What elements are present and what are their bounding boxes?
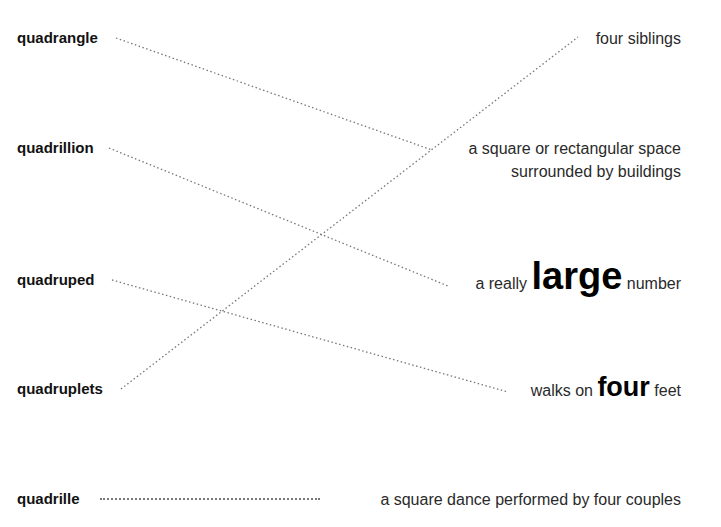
connector-quadruped <box>112 280 508 392</box>
term-quadrangle: quadrangle <box>17 29 98 46</box>
connector-quadrillion <box>109 148 448 286</box>
def-large-post: number <box>627 275 681 292</box>
def-quadrangle-line1: a square or rectangular space <box>468 137 681 160</box>
def-four-siblings: four siblings <box>596 27 681 50</box>
connector-quadrangle <box>116 38 432 150</box>
term-quadrille: quadrille <box>17 490 80 507</box>
def-large-pre: a really <box>475 275 527 292</box>
term-quadrillion: quadrillion <box>17 139 94 156</box>
def-large-emphasis: large <box>531 255 622 297</box>
term-quadruplets: quadruplets <box>17 380 103 397</box>
def-quadrangle: a square or rectangular space surrounded… <box>468 137 681 183</box>
connector-quadruplets <box>121 37 578 389</box>
def-square-dance: a square dance performed by four couples <box>380 488 681 511</box>
def-walks-post: feet <box>654 382 681 399</box>
def-walks-emphasis: four <box>597 372 649 402</box>
def-walks-pre: walks on <box>531 382 593 399</box>
def-walks-four-feet: walks on four feet <box>531 370 681 408</box>
def-large-number: a really large number <box>475 254 681 306</box>
connector-quadrille <box>100 498 320 500</box>
term-quadruped: quadruped <box>17 271 95 288</box>
def-quadrangle-line2: surrounded by buildings <box>468 160 681 183</box>
